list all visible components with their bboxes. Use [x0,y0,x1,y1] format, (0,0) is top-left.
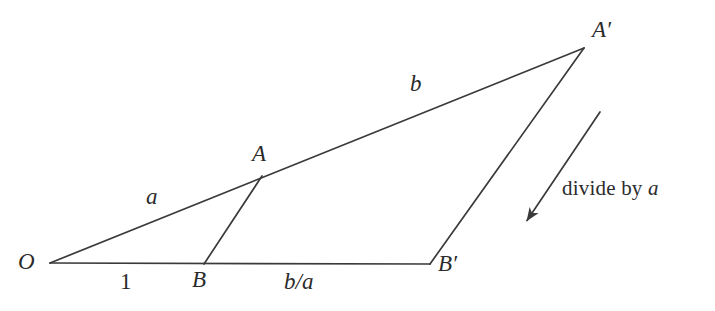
length-label-b: b [410,72,422,95]
length-label-a: a [146,185,158,208]
divide-by-a-arrow [527,112,600,221]
length-label-one: 1 [120,270,132,293]
figure-svg [0,0,715,311]
segment-O-to-B-prime [50,263,430,264]
segment-O-to-A-prime [50,48,584,263]
vertex-label-A-prime: A′ [592,18,611,41]
divide-by-a-annotation: divide by a [562,178,659,199]
vertex-label-B: B [192,268,206,291]
annotation-variable: a [648,176,659,200]
length-label-b-over-a: b/a [284,270,313,293]
vertex-label-B-prime: B′ [438,252,457,275]
vertex-label-A: A [252,142,266,165]
segment-A-prime-to-B-prime [430,48,584,264]
annotation-prefix: divide by [562,176,648,200]
geometry-diagram: O A B A′ B′ a b 1 b/a divide by a [0,0,715,311]
vertex-label-O: O [18,250,35,273]
